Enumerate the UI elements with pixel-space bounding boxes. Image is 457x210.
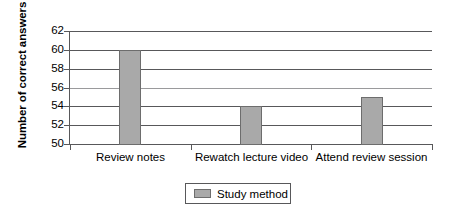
- x-category-label: Attend review session: [311, 150, 432, 164]
- y-axis-title: Number of correct answers: [9, 0, 35, 160]
- x-tick-mark: [432, 145, 433, 150]
- y-tick-label: 50: [42, 138, 64, 150]
- y-axis-tick-labels: 62 60 58 56 54 52 50: [38, 0, 64, 210]
- y-tick-label: 58: [42, 63, 64, 75]
- legend-label: Study method: [217, 188, 288, 200]
- bar: [119, 50, 141, 145]
- bar: [240, 106, 262, 145]
- plot-area: [70, 31, 432, 144]
- y-tick-label: 60: [42, 44, 64, 56]
- y-tick-label: 62: [42, 25, 64, 37]
- legend-swatch-icon: [194, 189, 211, 198]
- y-tick-label: 54: [42, 100, 64, 112]
- x-category-label: Rewatch lecture video: [191, 150, 312, 164]
- bar: [361, 97, 383, 145]
- legend: Study method: [185, 183, 291, 204]
- x-category-label: Review notes: [70, 150, 191, 164]
- gridline: [70, 31, 432, 32]
- y-tick-label: 56: [42, 82, 64, 94]
- y-tick-label: 52: [42, 119, 64, 131]
- bar-chart: Number of correct answers 62 60 58 56 54…: [0, 0, 457, 210]
